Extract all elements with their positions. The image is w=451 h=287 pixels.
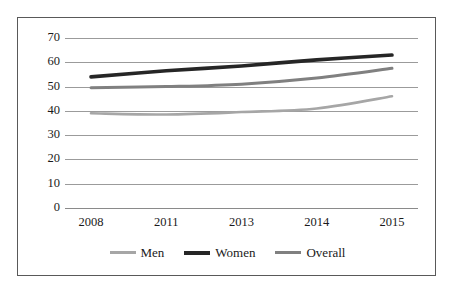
series-lines: [65, 38, 418, 208]
x-tick-label-2015: 2015: [380, 216, 405, 229]
y-tick-label-0: 0: [26, 201, 60, 214]
legend-label: Men: [141, 246, 165, 259]
legend-label: Overall: [306, 246, 345, 259]
y-tick-label-20: 20: [26, 152, 60, 165]
gridline-0: [65, 208, 418, 209]
legend-label: Women: [215, 246, 255, 259]
legend-item-men[interactable]: Men: [110, 246, 165, 259]
x-axis-labels: 20082011201320142015: [65, 214, 418, 234]
chart-legend: MenWomenOverall: [18, 246, 437, 259]
y-tick-label-10: 10: [26, 177, 60, 190]
legend-swatch-overall-icon: [275, 251, 301, 254]
plot-area: [65, 38, 418, 208]
chart-frame: 010203040506070 20082011201320142015 Men…: [17, 17, 436, 276]
y-tick-label-60: 60: [26, 55, 60, 68]
x-tick-label-2008: 2008: [79, 216, 104, 229]
x-tick-label-2014: 2014: [304, 216, 329, 229]
y-tick-label-30: 30: [26, 128, 60, 141]
series-line-men: [91, 96, 392, 114]
y-tick-label-50: 50: [26, 80, 60, 93]
y-tick-label-40: 40: [26, 104, 60, 117]
x-tick-label-2011: 2011: [154, 216, 179, 229]
y-axis-labels: 010203040506070: [18, 38, 60, 208]
figure-canvas: 010203040506070 20082011201320142015 Men…: [0, 0, 451, 287]
y-tick-label-70: 70: [26, 31, 60, 44]
legend-swatch-men-icon: [110, 251, 136, 254]
legend-swatch-women-icon: [184, 251, 210, 255]
legend-item-overall[interactable]: Overall: [275, 246, 345, 259]
x-tick-label-2013: 2013: [229, 216, 254, 229]
legend-item-women[interactable]: Women: [184, 246, 255, 259]
series-line-overall: [91, 68, 392, 87]
